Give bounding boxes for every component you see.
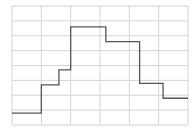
step-chart (0, 0, 195, 132)
grid-lines (12, 6, 188, 125)
